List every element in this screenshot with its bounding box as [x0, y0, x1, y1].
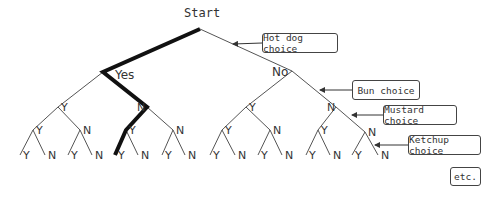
svg-text:N: N [381, 149, 389, 162]
root-label: Start [184, 6, 220, 20]
branch-labels: Y N Y N Y N Y N Y N Y N Y N Y N Y N Y N … [22, 101, 389, 162]
svg-text:N: N [273, 124, 281, 137]
ketchup-choice-box: Ketchup choice [408, 135, 481, 155]
svg-text:N: N [188, 149, 196, 162]
etc-box: etc. [450, 167, 481, 186]
svg-text:Y: Y [35, 124, 43, 137]
svg-text:Y: Y [354, 149, 362, 162]
tree-lines: Start Yes No Y N Y N Y N Y N Y N Y N Y N… [0, 0, 495, 201]
svg-text:N: N [95, 149, 103, 162]
svg-text:N: N [333, 149, 341, 162]
svg-text:N: N [368, 126, 376, 139]
svg-text:Y: Y [320, 124, 328, 137]
svg-text:Y: Y [260, 149, 268, 162]
bun-choice-box: Bun choice [352, 80, 420, 100]
branch-n: N [137, 101, 145, 114]
svg-text:Y: Y [212, 149, 220, 162]
svg-text:N: N [238, 149, 246, 162]
svg-text:Y: Y [22, 149, 30, 162]
svg-text:N: N [176, 124, 184, 137]
decision-tree-diagram: Start Yes No Y N Y N Y N Y N Y N Y N Y N… [0, 0, 495, 201]
svg-text:N: N [141, 149, 149, 162]
svg-text:Y: Y [70, 149, 78, 162]
branch-y: Y [248, 101, 256, 114]
mustard-choice-box: Mustard choice [383, 105, 457, 125]
svg-text:N: N [285, 149, 293, 162]
hot-dog-choice-box: Hot dog choice [262, 33, 338, 53]
branch-n: N [327, 101, 335, 114]
no-label: No [272, 65, 288, 79]
svg-text:Y: Y [224, 124, 232, 137]
branch-y: Y [60, 101, 68, 114]
svg-text:N: N [48, 149, 56, 162]
svg-text:Y: Y [128, 124, 136, 137]
svg-text:Y: Y [117, 149, 125, 162]
yes-label: Yes [114, 68, 134, 82]
svg-text:Y: Y [164, 149, 172, 162]
svg-text:Y: Y [308, 149, 316, 162]
svg-text:N: N [83, 124, 91, 137]
